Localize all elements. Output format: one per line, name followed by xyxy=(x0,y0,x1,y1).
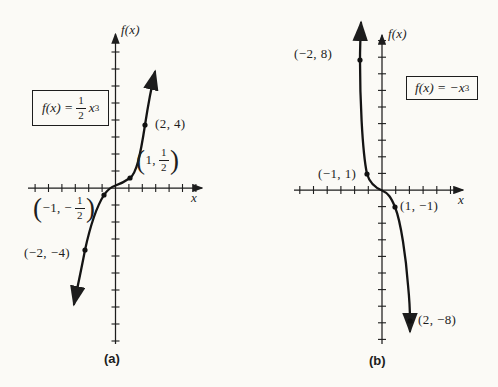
data-point-2-4 xyxy=(142,122,147,127)
point-label-neg2-neg4: (−2, −4) xyxy=(24,246,70,260)
formula-a-fraction: 1 2 xyxy=(76,95,86,121)
fraction-numerator: 1 xyxy=(159,147,169,160)
point-label-1-half: ( 1, 1 2 ) xyxy=(136,147,179,173)
fraction-denominator: 2 xyxy=(75,208,85,222)
paren-open: ( xyxy=(33,195,42,221)
fraction-numerator: 1 xyxy=(76,95,86,108)
point-label-2-4: (2, 4) xyxy=(155,117,186,131)
fraction-denominator: 2 xyxy=(76,108,86,122)
data-point-neg2-neg4 xyxy=(82,247,87,252)
data-point-neg2-8 xyxy=(357,57,362,62)
y-axis-label-a: f(x) xyxy=(121,23,140,37)
caption-a: (a) xyxy=(104,352,120,366)
data-point-neg1-1 xyxy=(364,171,369,176)
formula-box-b: f(x) = −x3 xyxy=(406,76,478,100)
point-label-neg1-1: (−1, 1) xyxy=(318,167,356,181)
formula-a-pre: f(x) = xyxy=(42,100,73,116)
point-label-1-neg1: (1, −1) xyxy=(400,199,438,213)
formula-b-pre: f(x) = −x xyxy=(415,80,465,96)
data-point-neg1-neghalf xyxy=(101,192,106,197)
fraction-denominator: 2 xyxy=(159,160,169,174)
point-label-2-neg8: (2, −8) xyxy=(418,313,456,327)
data-point-2-neg8 xyxy=(407,318,412,323)
fraction: 1 2 xyxy=(159,147,169,173)
y-axis-label-b: f(x) xyxy=(388,27,407,41)
point-label-neg2-8: (−2, 8) xyxy=(294,47,332,61)
formula-box-a: f(x) = 1 2 x3 xyxy=(32,90,109,126)
paren-open: ( xyxy=(136,147,145,173)
fraction: 1 2 xyxy=(75,195,85,221)
x-axis-label-b: x xyxy=(458,193,464,207)
x-axis-label-a: x xyxy=(191,191,197,205)
paren-close: ) xyxy=(170,147,179,173)
point-label-neg1-neghalf: ( −1, − 1 2 ) xyxy=(33,195,95,221)
graphs-canvas xyxy=(0,0,498,387)
data-point-1-neg1 xyxy=(392,204,397,209)
caption-b: (b) xyxy=(369,354,386,368)
label-text: −1, − xyxy=(42,201,72,215)
data-point-1-half xyxy=(127,175,132,180)
curve-neg-x-cubed xyxy=(360,23,410,331)
formula-a-post: x xyxy=(89,100,95,116)
fraction-numerator: 1 xyxy=(75,195,85,208)
paren-close: ) xyxy=(86,195,95,221)
label-text: 1, xyxy=(145,153,156,167)
figure-two-cubic-graphs: f(x) = 1 2 x3 f(x) x (2, 4) ( 1, 1 2 ) (… xyxy=(0,0,498,387)
